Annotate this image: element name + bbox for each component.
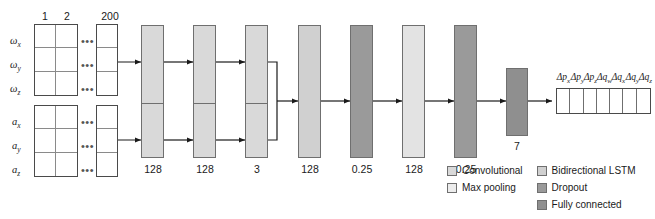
layer-label-branch-1: 128	[133, 163, 173, 175]
row-label-a-x: ax	[12, 116, 21, 130]
input-cell	[35, 72, 56, 95]
input-cell	[97, 129, 117, 152]
row-label-a-z: az	[12, 164, 20, 178]
row-label-omega-z: ωz	[10, 83, 20, 97]
input-cell	[97, 72, 117, 95]
input-cell	[56, 153, 77, 176]
layer-label-bilstm-1: 128	[290, 163, 330, 175]
layer-label-dropout-1: 0.25	[342, 163, 382, 175]
row-label-a-y: ay	[12, 140, 21, 154]
legend-swatch-fully-connected	[537, 200, 547, 210]
ellipsis: •••	[81, 117, 94, 128]
input-cell	[97, 25, 117, 48]
accel-input-grid	[34, 105, 78, 177]
legend-column-right: Bidirectional LSTM Dropout Fully connect…	[537, 163, 636, 212]
ellipsis: •••	[81, 84, 94, 95]
input-cell	[97, 48, 117, 71]
layer-block-bilstm-2	[402, 25, 425, 158]
input-cell	[35, 48, 56, 71]
legend-item-convolutional: Convolutional	[447, 163, 523, 178]
legend-item-max-pooling: Max pooling	[447, 180, 523, 195]
legend-item-fully-connected: Fully connected	[537, 197, 636, 212]
input-cell	[35, 153, 56, 176]
output-cell	[610, 89, 623, 113]
legend-label-dropout: Dropout	[552, 182, 588, 193]
layer-block-pool-accel	[245, 103, 268, 158]
layer-label-branch-3: 3	[237, 163, 277, 175]
output-cell	[597, 89, 610, 113]
input-col-header-1: 1	[34, 10, 56, 22]
legend-swatch-dropout	[537, 183, 547, 193]
output-cell	[570, 89, 583, 113]
ellipsis: •••	[81, 165, 94, 176]
legend-label-max-pooling: Max pooling	[462, 182, 516, 193]
layer-block-dropout-2	[454, 25, 477, 158]
output-vector	[556, 88, 651, 114]
layer-label-branch-2: 128	[185, 163, 225, 175]
legend-label-bidirectional-lstm: Bidirectional LSTM	[552, 165, 636, 176]
output-cell	[557, 89, 570, 113]
output-label-dqz: Δqz	[636, 72, 655, 85]
legend-swatch-max-pooling	[447, 183, 457, 193]
layer-block-conv-accel-1	[141, 103, 164, 158]
input-col-header-200: 200	[96, 10, 124, 22]
legend-label-fully-connected: Fully connected	[552, 199, 622, 210]
input-cell	[35, 25, 56, 48]
ellipsis: •••	[81, 60, 94, 71]
legend-item-dropout: Dropout	[537, 180, 636, 195]
legend-swatch-convolutional	[447, 166, 457, 176]
input-cell	[35, 129, 56, 152]
layer-block-conv-accel-2	[193, 103, 216, 158]
layer-block-fully-connected	[506, 68, 528, 136]
legend-item-bidirectional-lstm: Bidirectional LSTM	[537, 163, 636, 178]
input-cell	[35, 106, 56, 129]
ellipsis: •••	[81, 36, 94, 47]
input-cell	[56, 72, 77, 95]
gyro-input-grid	[34, 24, 78, 96]
legend-column-left: Convolutional Max pooling	[447, 163, 523, 212]
input-cell	[56, 25, 77, 48]
input-col-header-2: 2	[56, 10, 78, 22]
input-cell	[97, 153, 117, 176]
network-architecture-diagram: 1 2 200 ωx ωy ωz ••• ••• ••• ax ay az	[0, 0, 655, 219]
output-cell	[637, 89, 650, 113]
input-cell	[56, 129, 77, 152]
output-cell	[623, 89, 636, 113]
gyro-input-grid-200	[96, 24, 118, 96]
legend: Convolutional Max pooling Bidirectional …	[447, 163, 636, 212]
output-cell	[584, 89, 597, 113]
row-label-omega-y: ωy	[10, 59, 21, 73]
legend-label-convolutional: Convolutional	[462, 165, 523, 176]
input-cell	[56, 106, 77, 129]
ellipsis: •••	[81, 141, 94, 152]
legend-swatch-bidirectional-lstm	[537, 166, 547, 176]
layer-block-bilstm-1	[298, 25, 321, 158]
layer-label-bilstm-2: 128	[394, 163, 434, 175]
row-label-omega-x: ωx	[10, 35, 21, 49]
accel-input-grid-200	[96, 105, 118, 177]
layer-label-fully-connected: 7	[497, 140, 537, 152]
input-cell	[56, 48, 77, 71]
layer-block-dropout-1	[350, 25, 373, 158]
input-cell	[97, 106, 117, 129]
